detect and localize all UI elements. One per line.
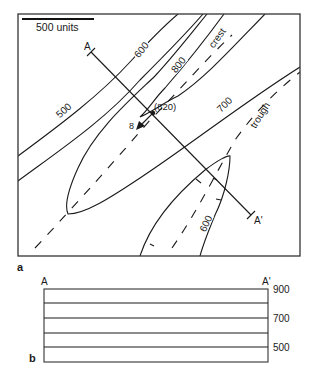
contour-line-700 xyxy=(66,67,300,214)
trough-label: trough xyxy=(248,100,272,130)
cross-section-start-label: A xyxy=(41,276,48,287)
cross-section-end-label: A' xyxy=(262,276,271,287)
panel-a-map: 500 600 800 700 600 crest trough A A' 8 … xyxy=(17,14,300,273)
section-end-label: A' xyxy=(254,215,263,226)
elevation-label-900: 900 xyxy=(273,284,290,295)
section-line-a-a-prime xyxy=(91,52,251,215)
svg-text:500: 500 xyxy=(54,100,74,120)
scale-bar-label: 500 units xyxy=(36,21,79,33)
contour-line-600-trough xyxy=(140,156,230,256)
panel-a-label: a xyxy=(17,261,24,273)
panel-b-cross-section: A A' 900 700 500 b xyxy=(29,276,290,364)
contour-label-700: 700 xyxy=(215,94,235,114)
section-start-label: A xyxy=(84,41,91,52)
contour-label-500: 500 xyxy=(54,100,74,120)
contour-label-600-trough: 600 xyxy=(197,213,214,234)
trough-axis-line xyxy=(172,72,300,248)
spot-elevation-label: (820) xyxy=(154,101,176,112)
cross-section-frame xyxy=(44,289,268,362)
elevation-label-700: 700 xyxy=(273,313,290,324)
geologic-structure-contour-diagram: 500 600 800 700 600 crest trough A A' 8 … xyxy=(0,0,314,377)
crest-label: crest xyxy=(206,26,228,50)
svg-text:700: 700 xyxy=(215,94,235,114)
panel-b-label: b xyxy=(29,352,36,364)
elevation-label-500: 500 xyxy=(273,342,290,353)
plunge-value-label: 8 xyxy=(129,121,134,131)
